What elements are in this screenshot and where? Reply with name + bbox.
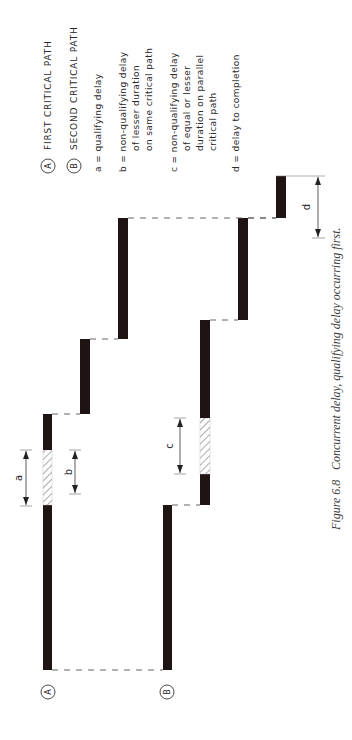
path-b-activity-4 [238,218,248,320]
figure-caption: Figure 6.8 Concurrent delay, qualifying … [329,227,343,531]
legend-definition-b: b = non-qualifying delay of lesser durat… [118,48,154,172]
caption-figure-number: Figure 6.8 [329,480,343,531]
dim-c-arrow-up-icon [177,419,183,427]
dimension-c: c [164,418,186,474]
path-a-activity-1 [43,505,52,670]
dim-b-arrow-down-icon [72,485,78,493]
dim-b-arrow-up-icon [72,451,78,459]
definition-a-line-1: a = qualifying delay [93,73,103,172]
definition-b-line-1: b = non-qualifying delay [118,51,128,172]
definition-c-line-1: c = non-qualifying delay [169,52,179,172]
path-a-activity-4 [118,218,128,339]
path-b-activity-1 [163,505,172,670]
legend-definition-a: a = qualifying delay [93,73,103,172]
path-b-activity-2 [200,474,210,505]
legend-path-a: A FIRST CRITICAL PATH [41,40,55,173]
dimension-a: a [13,450,32,506]
dim-d-arrow-down-icon [315,229,321,237]
definition-b-line-3: on same critical path [144,48,154,151]
dim-d-arrow-up-icon [315,177,321,185]
dim-c-label: c [164,443,175,449]
path-a-activity-2 [43,414,52,450]
dim-c-arrow-down-icon [177,465,183,473]
legend-path-b: B SECOND CRITICAL PATH [67,26,81,173]
legend-definition-d: d = delay to completion [231,54,241,172]
dim-a-arrow-down-icon [23,497,29,505]
path-a-marker: A [41,685,55,699]
legend-marker-b: B [70,163,79,169]
dim-a-arrow-up-icon [23,451,29,459]
legend-marker-a: A [44,163,53,169]
completion-activity [276,176,286,218]
path-a-qualifying-delay-hatched [43,450,52,505]
path-a-activity-3 [80,339,90,414]
dim-d-label: d [301,204,312,210]
concurrent-delay-diagram: A FIRST CRITICAL PATH B SECOND CRITICAL … [0,0,352,740]
definition-c-line-3: duration on parallel [195,55,205,151]
dim-a-label: a [13,475,24,481]
dimension-b: b [63,450,81,494]
caption-text: Concurrent delay, qualifying delay occur… [329,227,343,470]
definition-c-line-4: critical path [208,92,218,151]
path-b-non-qualifying-delay-hatched [200,418,210,474]
legend-label-second-critical-path: SECOND CRITICAL PATH [69,26,79,150]
dimension-d: d [301,177,325,238]
critical-path-a [43,218,128,670]
path-b-marker: B [160,685,174,699]
definition-c-line-2: of equal or lesser [182,66,192,151]
definition-b-line-2: of lesser duration [131,65,141,151]
dim-b-label: b [63,469,74,475]
path-b-marker-letter: B [163,689,172,695]
legend-definition-c: c = non-qualifying delay of equal or les… [169,52,218,172]
path-b-activity-3 [200,320,210,418]
path-a-marker-letter: A [44,689,53,695]
definition-d-line-1: d = delay to completion [231,54,241,172]
legend-label-first-critical-path: FIRST CRITICAL PATH [43,40,53,150]
legend: A FIRST CRITICAL PATH B SECOND CRITICAL … [41,26,241,173]
